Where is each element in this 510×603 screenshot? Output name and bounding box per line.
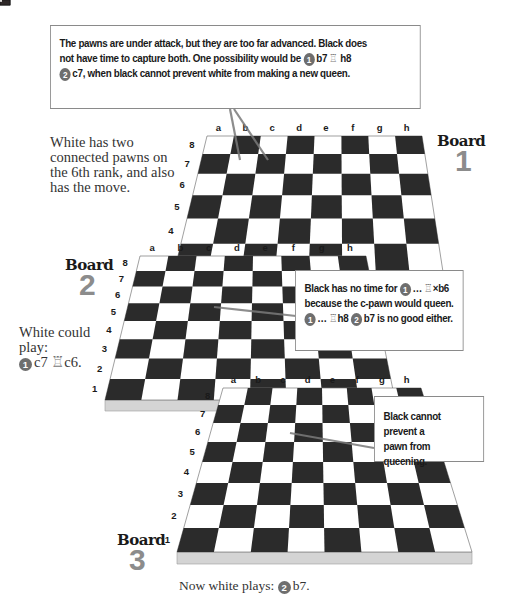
- file-label: h: [404, 374, 410, 385]
- square-e3: [323, 483, 357, 505]
- callout-line: Black cannot prevent a: [383, 409, 474, 439]
- square-a3: [115, 339, 153, 358]
- square-h8: [338, 256, 369, 271]
- square-e7: [313, 154, 342, 174]
- board-3-caption: Now white plays: 2b7.: [179, 578, 310, 594]
- square-f2: [285, 359, 321, 379]
- callout-board-1: The pawns are under attack, but they are…: [50, 25, 421, 109]
- square-h2: [424, 505, 465, 528]
- callout-text-run: Black cannot prevent a: [383, 410, 440, 437]
- rank-label: 5: [111, 306, 117, 317]
- rank-label: 4: [184, 466, 190, 477]
- square-b6: [159, 287, 192, 304]
- caption-text: Now white plays:: [179, 578, 278, 593]
- file-label: e: [330, 374, 335, 385]
- square-g3: [374, 244, 409, 271]
- square-f4: [342, 219, 374, 244]
- callout-text-run: b7: [316, 52, 329, 64]
- square-b6: [237, 423, 268, 442]
- square-d6: [221, 287, 252, 304]
- text-line: White has two: [50, 135, 174, 150]
- move-number-badge: 2: [59, 68, 70, 81]
- rank-label: 2: [171, 510, 176, 521]
- rank-label: 3: [178, 488, 183, 499]
- rank-label: 6: [180, 179, 185, 190]
- text-line: play:: [19, 340, 90, 355]
- square-f2: [357, 505, 394, 528]
- rank-label: 5: [174, 201, 180, 212]
- square-a1: [105, 379, 145, 400]
- file-label: c: [280, 374, 285, 385]
- move-number-badge: 2: [351, 313, 362, 326]
- callout-line: 1… ♖h8 2b7 is no good either.: [304, 311, 454, 326]
- square-e5: [311, 195, 342, 218]
- square-c7: [255, 154, 286, 174]
- square-a7: [198, 154, 231, 174]
- square-a5: [202, 442, 236, 462]
- text-line: the 6th rank, and also: [50, 165, 174, 180]
- callout-text-run: …: [317, 312, 329, 324]
- rank-label: 8: [205, 390, 210, 401]
- move-number-badge: 1: [400, 283, 411, 296]
- rank-label: 6: [115, 289, 120, 300]
- callout-text-run: Black has no time for: [304, 282, 399, 294]
- move-text: c6.: [64, 354, 81, 370]
- square-a5: [124, 303, 159, 321]
- text-line: has the move.: [50, 180, 174, 195]
- square-f8: [341, 136, 369, 154]
- square-f8: [281, 256, 311, 271]
- move-line: 1c7 ♖c6.: [19, 355, 90, 371]
- chess-diagram: abcdefgh87654abcdefgh87654321abcdefgh876…: [0, 0, 510, 603]
- board-2-description: White could play: 1c7 ♖c6.: [19, 325, 90, 371]
- square-f8: [347, 388, 375, 405]
- square-c1: [251, 528, 289, 552]
- square-b4: [213, 219, 249, 244]
- square-g7: [369, 154, 399, 174]
- callout-text-run: not have time to capture both. One possi…: [59, 52, 303, 64]
- square-e7: [252, 271, 282, 287]
- square-a3: [190, 483, 228, 505]
- square-d8: [286, 136, 315, 154]
- rank-label: 6: [195, 426, 200, 437]
- rook-icon: ♖: [329, 52, 337, 64]
- file-label: c: [270, 122, 275, 133]
- file-label: a: [149, 242, 155, 253]
- callout-text-run: because the c-pawn would queen.: [304, 297, 453, 309]
- callout-text-run: The pawns are under attack, but they are…: [59, 37, 367, 49]
- rank-label: 1: [92, 383, 98, 394]
- file-label: h: [347, 242, 353, 253]
- file-label: f: [351, 122, 355, 133]
- callout-line: pawn from queening.: [383, 439, 474, 469]
- callout-line: because the c-pawn would queen.: [304, 296, 454, 311]
- rank-label: 8: [123, 257, 128, 268]
- callout-text: Black cannot prevent apawn from queening…: [375, 397, 483, 479]
- square-b2: [219, 505, 257, 528]
- callout-line: The pawns are under attack, but they are…: [59, 36, 411, 51]
- square-g1: [394, 528, 435, 552]
- callout-board-3: Black cannot prevent apawn from queening…: [374, 396, 484, 462]
- file-label: b: [177, 242, 183, 253]
- file-label: g: [377, 122, 383, 133]
- board-edge: [177, 552, 472, 564]
- square-c3: [183, 339, 218, 358]
- square-c3: [257, 483, 292, 505]
- rank-label: 4: [168, 225, 174, 236]
- file-label: h: [404, 122, 410, 133]
- square-d6: [282, 174, 313, 196]
- square-d4: [278, 219, 311, 244]
- square-c5: [188, 303, 221, 321]
- rank-label: 1: [165, 534, 171, 545]
- file-label: d: [296, 122, 302, 133]
- square-f6: [342, 174, 372, 196]
- text-line: White could: [19, 325, 90, 340]
- move-text: c7: [34, 354, 51, 370]
- square-e5: [323, 442, 354, 462]
- square-g5: [372, 195, 404, 218]
- square-b6: [223, 174, 256, 196]
- square-d8: [296, 388, 322, 405]
- move-number-badge: 1: [19, 358, 32, 371]
- callout-board-2: Black has no time for 1… ♖×b6because the…: [295, 270, 464, 351]
- square-b8: [244, 388, 272, 405]
- callout-text-run: h8: [338, 52, 351, 64]
- caption-move: b7.: [293, 578, 310, 593]
